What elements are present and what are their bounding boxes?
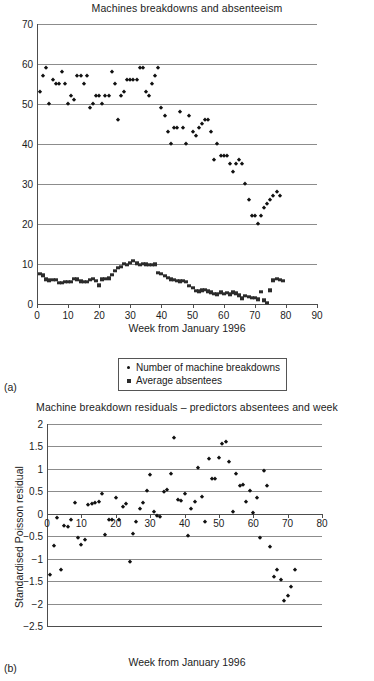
gridline [47, 604, 322, 605]
data-point [234, 471, 239, 476]
data-point [289, 585, 294, 590]
data-point [81, 82, 86, 87]
data-point [97, 94, 102, 99]
data-point [192, 500, 197, 505]
data-point [265, 202, 270, 207]
x-axis-tick-label: 70 [249, 310, 260, 321]
x-axis-tick-label: 30 [145, 518, 156, 529]
data-point [271, 194, 276, 199]
data-point [159, 106, 164, 111]
square-marker-icon [124, 374, 133, 387]
data-point [206, 118, 211, 123]
x-axis-tick-label: 50 [213, 518, 224, 529]
data-point [281, 279, 285, 282]
x-axis-tick-mark [193, 304, 194, 308]
data-point [265, 484, 270, 489]
chart-a-title: Machines breakdowns and absenteeism [0, 2, 374, 14]
data-point [84, 74, 89, 79]
chart-a-legend: Number of machine breakdowns Average abs… [118, 358, 287, 391]
data-point [120, 505, 125, 510]
data-point [122, 90, 127, 95]
x-axis-tick-label: 20 [94, 310, 105, 321]
data-point [41, 74, 46, 79]
data-point [91, 102, 96, 107]
x-axis-tick-mark [130, 304, 131, 308]
gridline [37, 224, 317, 225]
data-point [48, 573, 53, 578]
x-axis-line [37, 304, 317, 305]
data-point [259, 290, 263, 293]
chart-a-x-axis-label: Week from January 1996 [0, 322, 374, 334]
data-point [44, 66, 49, 71]
chart-b-x-axis-label: Week from January 1996 [0, 656, 374, 668]
x-axis-tick-label: 80 [280, 310, 291, 321]
data-point [87, 106, 92, 111]
chart-b-title: Machine breakdown residuals – predictors… [0, 401, 374, 413]
data-point [79, 543, 84, 548]
data-point [115, 118, 120, 123]
data-point [216, 455, 221, 460]
data-point [199, 495, 204, 500]
data-point [100, 102, 105, 107]
data-point [78, 74, 83, 79]
data-point [282, 598, 287, 603]
data-point [227, 460, 232, 465]
legend-item-breakdowns: Number of machine breakdowns [124, 361, 280, 374]
y-axis-tick-label: 0 [37, 508, 43, 519]
data-point [261, 468, 266, 473]
data-point [193, 134, 198, 139]
gridline [47, 446, 322, 447]
data-point [137, 506, 142, 511]
data-point [275, 568, 280, 573]
gridline [37, 64, 317, 65]
x-axis-tick-mark [224, 304, 225, 308]
y-axis-line [37, 24, 38, 304]
data-point [265, 301, 269, 304]
data-point [141, 500, 146, 505]
data-point [215, 142, 220, 147]
x-axis-tick-mark [68, 304, 69, 308]
x-axis-tick-label: 60 [218, 310, 229, 321]
data-point [51, 544, 56, 549]
data-point [254, 495, 259, 500]
x-axis-tick-label: 0 [44, 518, 50, 529]
data-point [150, 82, 155, 87]
gridline [37, 184, 317, 185]
data-point [187, 114, 192, 119]
data-point [184, 280, 188, 283]
data-point [186, 534, 191, 539]
data-point [246, 198, 251, 203]
y-axis-tick-label: 70 [22, 19, 33, 30]
data-point [271, 575, 276, 580]
data-point [259, 214, 264, 219]
y-axis-tick-label: 50 [22, 99, 33, 110]
data-point [212, 158, 217, 163]
data-point [231, 170, 236, 175]
data-point [144, 489, 149, 494]
x-axis-tick-label: 40 [156, 310, 167, 321]
x-axis-tick-mark [37, 304, 38, 308]
data-point [247, 489, 252, 494]
gridline [47, 626, 322, 627]
x-axis-tick-label: 40 [179, 518, 190, 529]
data-point [268, 544, 273, 549]
data-point [178, 110, 183, 115]
y-axis-tick-label: −1.5 [23, 576, 43, 587]
data-point [134, 519, 139, 524]
y-axis-tick-label: 10 [22, 259, 33, 270]
y-axis-tick-label: 60 [22, 59, 33, 70]
data-point [285, 594, 290, 599]
data-point [277, 194, 282, 199]
data-point [179, 498, 184, 503]
data-point [182, 492, 187, 497]
data-point [227, 162, 232, 167]
y-axis-tick-label: −1 [32, 553, 43, 564]
data-point [127, 560, 132, 565]
y-axis-tick-label: −2 [32, 598, 43, 609]
data-point [153, 263, 157, 266]
gridline [37, 144, 317, 145]
chart-b-plot-area: −2.5−2−1.5−1−0.500.511.52010203040506070… [47, 424, 322, 626]
panel-label-b: (b) [4, 662, 17, 674]
data-point [109, 70, 114, 75]
figure-panel-group: Machines breakdowns and absenteeism 0102… [0, 0, 374, 681]
